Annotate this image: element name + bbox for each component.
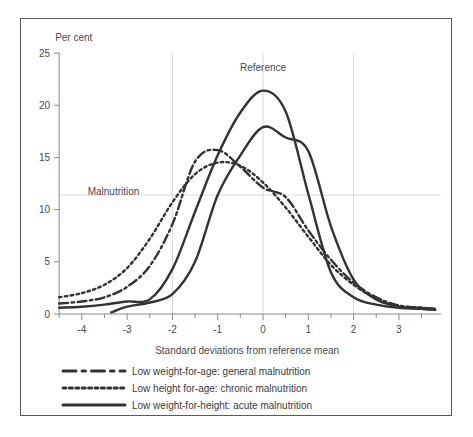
series-line-0 <box>59 150 435 309</box>
x-axis-tick-label: 2 <box>351 324 357 335</box>
legend-label-2: Low weight-for-height: acute malnutritio… <box>132 400 312 411</box>
y-axis-title: Per cent <box>55 32 92 43</box>
x-axis-title: Standard deviations from reference mean <box>155 345 339 356</box>
chart-plot-area: 0510152025-4-3-2-10123Per centStandard d… <box>21 19 453 417</box>
y-axis-tick-label: 20 <box>39 100 51 111</box>
x-axis-tick-label: -4 <box>77 324 86 335</box>
y-axis-tick-label: 25 <box>39 48 51 59</box>
x-axis-tick-label: -3 <box>123 324 132 335</box>
chart-annotation-malnutrition: Malnutrition <box>88 186 140 197</box>
y-axis-tick-label: 15 <box>39 152 51 163</box>
x-axis-tick-label: -1 <box>213 324 222 335</box>
x-axis-tick-label: 3 <box>396 324 402 335</box>
chart-figure-frame: 0510152025-4-3-2-10123Per centStandard d… <box>20 18 452 416</box>
y-axis-tick-label: 5 <box>45 256 51 267</box>
series-line-1 <box>59 162 435 309</box>
legend-label-0: Low weight-for-age: general malnutrition <box>132 366 310 377</box>
chart-annotation-reference: Reference <box>240 62 287 73</box>
series-line-3 <box>111 127 435 313</box>
x-axis-tick-label: 1 <box>306 324 312 335</box>
x-axis-tick-label: -2 <box>168 324 177 335</box>
y-axis-tick-label: 10 <box>39 204 51 215</box>
y-axis-tick-label: 0 <box>45 309 51 320</box>
legend-label-1: Low height for-age: chronic malnutrition <box>132 383 307 394</box>
x-axis-tick-label: 0 <box>260 324 266 335</box>
chart-svg: 0510152025-4-3-2-10123Per centStandard d… <box>21 19 453 417</box>
